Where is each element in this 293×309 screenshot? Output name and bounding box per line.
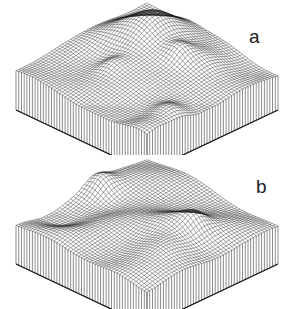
panel-label-a: a [249, 26, 260, 48]
panel-label-b: b [256, 176, 267, 198]
surface-plot-b [0, 154, 293, 309]
surface-panel-a: a [0, 0, 293, 155]
surface-panel-b: b [0, 154, 293, 309]
surface-plot-a [0, 0, 293, 155]
